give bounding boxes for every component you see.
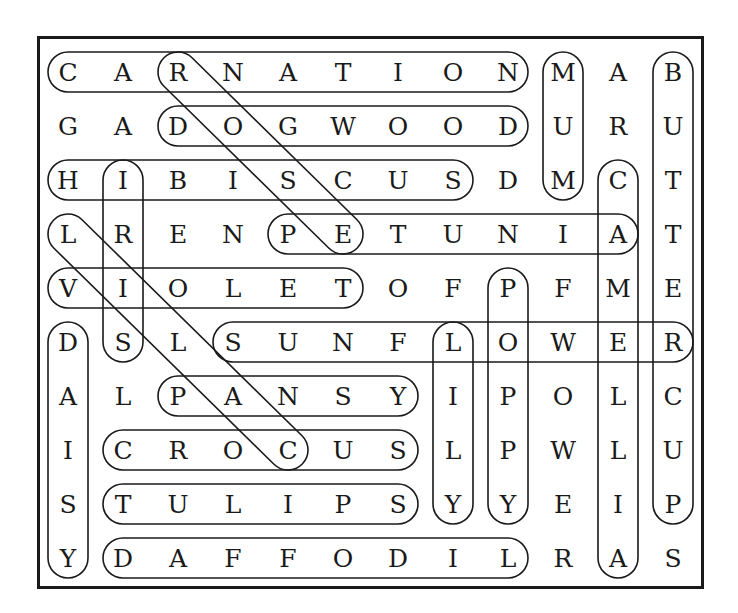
grid-letter[interactable]: R <box>158 52 198 92</box>
grid-letter[interactable]: S <box>103 322 143 362</box>
grid-letter[interactable]: D <box>488 106 528 146</box>
grid-letter[interactable]: O <box>213 430 253 470</box>
grid-letter[interactable]: U <box>323 430 363 470</box>
grid-letter[interactable]: S <box>323 376 363 416</box>
grid-letter[interactable]: C <box>323 160 363 200</box>
grid-letter[interactable]: I <box>598 484 638 524</box>
grid-letter[interactable]: U <box>158 484 198 524</box>
grid-letter[interactable]: L <box>433 430 473 470</box>
grid-letter[interactable]: L <box>158 322 198 362</box>
grid-letter[interactable]: T <box>653 214 693 254</box>
grid-letter[interactable]: O <box>433 106 473 146</box>
grid-letter[interactable]: T <box>378 214 418 254</box>
grid-letter[interactable]: U <box>433 214 473 254</box>
grid-letter[interactable]: A <box>213 376 253 416</box>
grid-letter[interactable]: O <box>378 106 418 146</box>
grid-letter[interactable]: E <box>268 268 308 308</box>
grid-letter[interactable]: U <box>653 106 693 146</box>
grid-letter[interactable]: M <box>598 268 638 308</box>
grid-letter[interactable]: S <box>268 160 308 200</box>
grid-letter[interactable]: B <box>653 52 693 92</box>
grid-letter[interactable]: P <box>488 376 528 416</box>
grid-letter[interactable]: I <box>48 430 88 470</box>
grid-letter[interactable]: T <box>323 268 363 308</box>
grid-letter[interactable]: I <box>103 160 143 200</box>
grid-letter[interactable]: L <box>48 214 88 254</box>
grid-letter[interactable]: F <box>543 268 583 308</box>
grid-letter[interactable]: A <box>48 376 88 416</box>
grid-letter[interactable]: G <box>268 106 308 146</box>
grid-letter[interactable]: T <box>103 484 143 524</box>
grid-letter[interactable]: V <box>48 268 88 308</box>
grid-letter[interactable]: A <box>103 52 143 92</box>
grid-letter[interactable]: W <box>543 322 583 362</box>
grid-letter[interactable]: O <box>488 322 528 362</box>
grid-letter[interactable]: L <box>598 376 638 416</box>
grid-letter[interactable]: C <box>48 52 88 92</box>
grid-letter[interactable]: E <box>653 268 693 308</box>
grid-letter[interactable]: O <box>213 106 253 146</box>
grid-letter[interactable]: L <box>488 538 528 578</box>
grid-letter[interactable]: D <box>103 538 143 578</box>
grid-letter[interactable]: L <box>433 322 473 362</box>
grid-letter[interactable]: U <box>653 430 693 470</box>
grid-letter[interactable]: C <box>268 430 308 470</box>
grid-letter[interactable]: P <box>158 376 198 416</box>
grid-letter[interactable]: P <box>268 214 308 254</box>
grid-letter[interactable]: C <box>653 376 693 416</box>
grid-letter[interactable]: L <box>213 268 253 308</box>
grid-letter[interactable]: O <box>378 268 418 308</box>
grid-letter[interactable]: R <box>598 106 638 146</box>
grid-letter[interactable]: I <box>543 214 583 254</box>
grid-letter[interactable]: F <box>433 268 473 308</box>
grid-letter[interactable]: U <box>268 322 308 362</box>
grid-letter[interactable]: M <box>543 52 583 92</box>
grid-letter[interactable]: T <box>653 160 693 200</box>
grid-letter[interactable]: S <box>213 322 253 362</box>
grid-letter[interactable]: L <box>598 430 638 470</box>
grid-letter[interactable]: S <box>433 160 473 200</box>
grid-letter[interactable]: U <box>378 160 418 200</box>
grid-letter[interactable]: D <box>488 160 528 200</box>
grid-letter[interactable]: L <box>103 376 143 416</box>
grid-letter[interactable]: A <box>598 52 638 92</box>
grid-letter[interactable]: F <box>213 538 253 578</box>
grid-letter[interactable]: Y <box>433 484 473 524</box>
grid-letter[interactable]: N <box>488 214 528 254</box>
grid-letter[interactable]: Y <box>488 484 528 524</box>
grid-letter[interactable]: A <box>598 214 638 254</box>
grid-letter[interactable]: G <box>48 106 88 146</box>
grid-letter[interactable]: D <box>378 538 418 578</box>
grid-letter[interactable]: A <box>598 538 638 578</box>
grid-letter[interactable]: I <box>433 376 473 416</box>
grid-letter[interactable]: O <box>543 376 583 416</box>
grid-letter[interactable]: I <box>213 160 253 200</box>
grid-letter[interactable]: Y <box>378 376 418 416</box>
grid-letter[interactable]: W <box>323 106 363 146</box>
grid-letter[interactable]: Y <box>48 538 88 578</box>
grid-letter[interactable]: P <box>488 268 528 308</box>
grid-letter[interactable]: D <box>158 106 198 146</box>
grid-letter[interactable]: P <box>488 430 528 470</box>
grid-letter[interactable]: S <box>378 430 418 470</box>
grid-letter[interactable]: L <box>213 484 253 524</box>
grid-letter[interactable]: D <box>48 322 88 362</box>
grid-letter[interactable]: M <box>543 160 583 200</box>
grid-letter[interactable]: A <box>268 52 308 92</box>
grid-letter[interactable]: E <box>598 322 638 362</box>
grid-letter[interactable]: B <box>158 160 198 200</box>
grid-letter[interactable]: I <box>268 484 308 524</box>
grid-letter[interactable]: E <box>158 214 198 254</box>
grid-letter[interactable]: R <box>653 322 693 362</box>
grid-letter[interactable]: N <box>488 52 528 92</box>
grid-letter[interactable]: N <box>268 376 308 416</box>
grid-letter[interactable]: O <box>323 538 363 578</box>
grid-letter[interactable]: R <box>543 538 583 578</box>
grid-letter[interactable]: A <box>103 106 143 146</box>
grid-letter[interactable]: S <box>48 484 88 524</box>
grid-letter[interactable]: F <box>268 538 308 578</box>
grid-letter[interactable]: R <box>103 214 143 254</box>
grid-letter[interactable]: I <box>103 268 143 308</box>
grid-letter[interactable]: N <box>213 214 253 254</box>
grid-letter[interactable]: C <box>103 430 143 470</box>
